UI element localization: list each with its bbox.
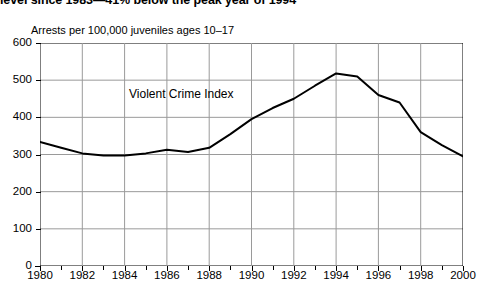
y-tick-label: 400 [2,111,32,123]
x-tick-mark [400,266,401,270]
plot-area [40,43,463,266]
axis-baseline-stub [35,266,40,267]
x-tick-mark [421,266,422,271]
x-tick-mark [336,266,337,271]
y-tick-mark [36,192,41,193]
y-tick-mark [36,229,41,230]
y-tick-label: 300 [2,149,32,161]
x-tick-mark [125,266,126,271]
y-tick-mark [36,80,41,81]
x-tick-label: 2000 [443,270,483,282]
x-tick-mark [209,266,210,271]
plot-svg [40,43,463,266]
y-tick-label: 100 [2,223,32,235]
x-tick-label: 1992 [274,270,314,282]
x-tick-label: 1988 [189,270,229,282]
y-tick-mark [36,155,41,156]
chart-headline: level since 1983—41% below the peak year… [0,0,484,7]
x-tick-mark [378,266,379,271]
x-tick-mark [442,266,443,270]
x-tick-mark [463,266,464,271]
x-tick-label: 1998 [401,270,441,282]
y-tick-mark [36,117,41,118]
x-tick-label: 1984 [105,270,145,282]
x-tick-mark [252,266,253,271]
x-tick-mark [188,266,189,270]
x-tick-mark [103,266,104,270]
y-tick-label: 600 [2,37,32,49]
x-tick-mark [167,266,168,271]
x-tick-label: 1994 [316,270,356,282]
x-tick-label: 1980 [20,270,60,282]
x-tick-mark [146,266,147,270]
y-tick-mark [36,43,41,44]
chart-figure: level since 1983—41% below the peak year… [0,0,484,286]
y-tick-label: 500 [2,74,32,86]
x-tick-mark [61,266,62,270]
x-tick-mark [315,266,316,270]
x-tick-label: 1990 [232,270,272,282]
x-tick-mark [82,266,83,271]
x-tick-label: 1986 [147,270,187,282]
y-tick-label: 200 [2,186,32,198]
x-tick-label: 1982 [62,270,102,282]
x-tick-mark [40,266,41,271]
x-tick-label: 1996 [358,270,398,282]
x-tick-mark [357,266,358,270]
series-annotation-violent-crime-index: Violent Crime Index [129,88,234,100]
y-axis-caption: Arrests per 100,000 juveniles ages 10–17 [31,24,234,37]
x-tick-mark [294,266,295,271]
x-tick-mark [273,266,274,270]
x-tick-mark [230,266,231,270]
